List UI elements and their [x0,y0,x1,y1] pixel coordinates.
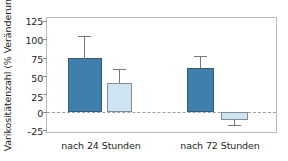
y-tick-label: 0 [17,109,43,119]
y-tick-label: –25 [17,127,43,137]
y-tick-label: 50 [17,74,43,84]
plot-area [46,17,277,133]
bar-group2-dark [187,68,214,112]
error-bar-cap-group2-light [228,125,241,126]
y-tick-label: 125 [17,17,43,27]
y-tick-mark [43,39,47,40]
error-bar-cap-group1-light [113,69,126,70]
error-bar-stem-group1-light [119,69,120,83]
y-tick-label: 75 [17,55,43,65]
bar-group1-light [107,83,132,112]
y-tick-mark [43,76,47,77]
y-tick-mark [43,94,47,95]
y-tick-label: 100 [17,36,43,46]
error-bar-stem-group1-dark [84,36,85,59]
error-bar-cap-group1-dark [78,36,91,37]
y-tick-mark [43,58,47,59]
x-axis-label-group2: nach 72 Stunden [165,140,275,151]
y-axis-title-text: Varikositätenzahl (% Veränderung) [3,0,14,151]
error-bar-stem-group2-dark [200,56,201,68]
y-tick-label: 25 [17,93,43,103]
y-axis-title: Varikositätenzahl (% Veränderung) [0,0,16,140]
y-axis-tick-labels: 125 100 75 50 25 0 –25 [15,0,43,161]
bar-group1-dark [68,58,102,112]
y-tick-mark [43,130,47,131]
y-tick-mark [43,21,47,22]
error-bar-cap-group2-dark [194,56,207,57]
bar-chart: Varikositätenzahl (% Veränderung) 125 10… [0,0,288,161]
bar-group2-light [221,112,248,120]
x-axis-label-group1: nach 24 Stunden [46,140,156,151]
